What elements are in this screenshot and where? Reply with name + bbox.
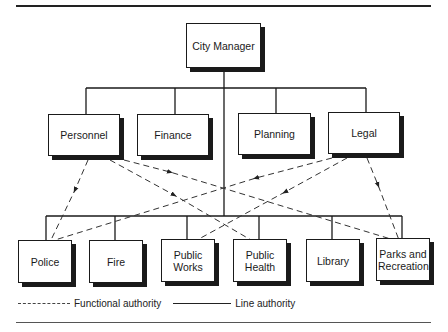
legend: Functional authority Line authority (18, 298, 295, 309)
solid-line-swatch (173, 303, 231, 304)
parks-label: Parks and Recreation (378, 248, 428, 272)
finance-label: Finance (154, 129, 191, 141)
police-label: Police (31, 256, 60, 268)
legend-functional: Functional authority (74, 298, 161, 309)
box-personnel: Personnel (48, 114, 120, 156)
box-finance: Finance (137, 114, 209, 156)
box-library: Library (306, 239, 360, 282)
box-fire: Fire (89, 240, 143, 283)
functional-authority-lines (51, 158, 399, 240)
box-parks-and-recreation: Parks and Recreation (376, 238, 430, 281)
personnel-label: Personnel (60, 129, 107, 141)
legal-label: Legal (351, 127, 377, 139)
box-police: Police (18, 240, 72, 283)
public-works-label: Public Works (168, 249, 208, 273)
fire-label: Fire (107, 256, 125, 268)
box-public-works: Public Works (161, 239, 215, 282)
bottom-rule (16, 322, 431, 323)
dashed-line-swatch (18, 303, 70, 304)
planning-label: Planning (254, 128, 295, 140)
public-health-label: Public Health (240, 249, 280, 273)
box-city-manager: City Manager (186, 23, 261, 68)
box-legal: Legal (328, 112, 400, 154)
box-public-health: Public Health (233, 239, 287, 282)
city-manager-label: City Manager (192, 40, 254, 52)
legend-line: Line authority (235, 298, 295, 309)
library-label: Library (317, 255, 349, 267)
box-planning: Planning (238, 113, 311, 155)
